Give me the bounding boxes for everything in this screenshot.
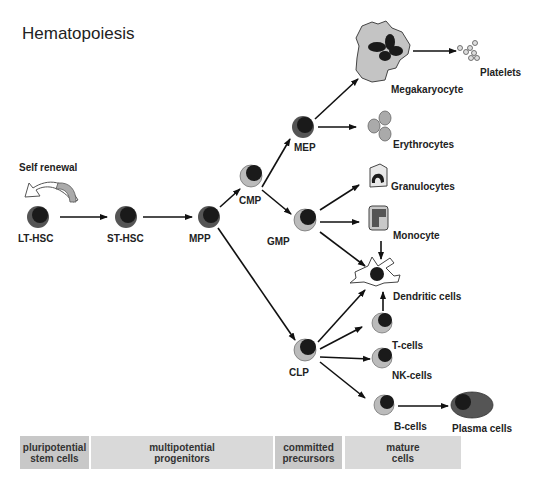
cell-clp-icon: [294, 339, 316, 361]
platelets-label: Platelets: [480, 67, 521, 78]
dendritic-cell-icon: [350, 257, 400, 286]
cell-lt-hsc-icon: [27, 206, 49, 228]
monocyte-label: Monocyte: [393, 230, 440, 241]
cmp-label: CMP: [239, 195, 261, 206]
self-renewal-arrow-icon: [25, 182, 78, 202]
gmp-label: GMP: [267, 236, 290, 247]
clp-label: CLP: [289, 367, 309, 378]
monocyte-icon: [369, 206, 388, 230]
stage-multipotential: multipotential progenitors: [91, 436, 273, 469]
b-cells-label: B-cells: [394, 421, 427, 432]
stage-pluripotential: pluripotential stem cells: [20, 436, 89, 469]
lineage-arrows: [60, 51, 456, 406]
cell-mpp-icon: [198, 206, 220, 228]
platelets-icon: [458, 41, 480, 61]
erythrocytes-icon: [368, 111, 391, 141]
cell-mep-icon: [292, 116, 314, 138]
nk-cell-icon: [372, 348, 392, 368]
lt-hsc-label: LT-HSC: [18, 233, 53, 244]
cell-st-hsc-icon: [115, 206, 137, 228]
stage-committed: committed precursors: [275, 436, 342, 469]
granulocytes-label: Granulocytes: [391, 181, 455, 192]
nk-cells-label: NK-cells: [392, 370, 432, 381]
b-cell-icon: [374, 395, 394, 415]
t-cells-label: T-cells: [392, 340, 423, 351]
stage-mature: mature cells: [345, 436, 461, 469]
hematopoiesis-diagram: Hematopoiesis Self renewal LT-HSC ST-HSC…: [0, 0, 540, 483]
plasma-cells-label: Plasma cells: [452, 423, 512, 434]
megakaryocyte-icon: [356, 21, 410, 82]
st-hsc-label: ST-HSC: [107, 233, 144, 244]
granulocyte-icon: [370, 164, 387, 187]
cell-cmp-icon: [240, 165, 262, 187]
mep-label: MEP: [294, 142, 316, 153]
plasma-cell-icon: [451, 392, 493, 418]
erythrocytes-label: Erythrocytes: [393, 139, 454, 150]
cell-gmp-icon: [294, 209, 316, 231]
t-cell-icon: [372, 313, 392, 333]
dendritic-cells-label: Dendritic cells: [393, 291, 461, 302]
diagram-title: Hematopoiesis: [22, 24, 134, 44]
mpp-label: MPP: [189, 233, 211, 244]
self-renewal-label: Self renewal: [19, 162, 77, 173]
megakaryocyte-label: Megakaryocyte: [391, 84, 463, 95]
